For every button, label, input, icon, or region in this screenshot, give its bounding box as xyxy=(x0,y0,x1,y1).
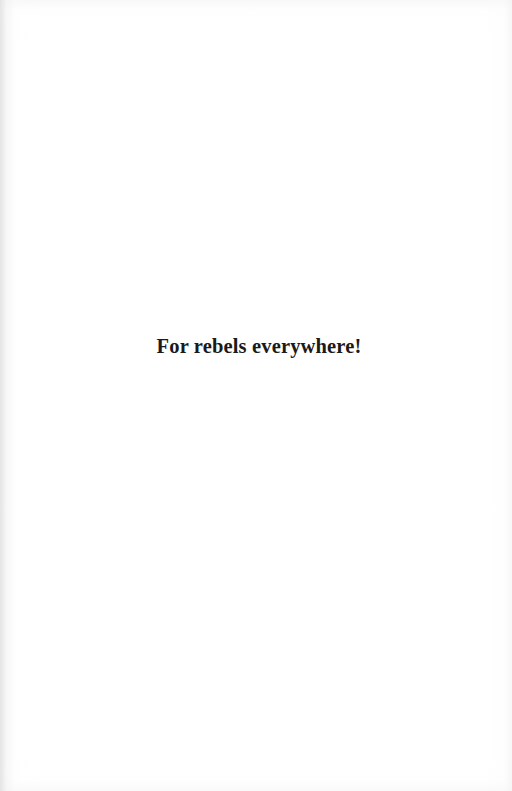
page-paper-texture xyxy=(0,0,512,791)
book-page: For rebels everywhere! xyxy=(0,0,512,791)
binding-shadow xyxy=(0,0,14,791)
dedication-block: For rebels everywhere! xyxy=(0,333,512,359)
dedication-text: For rebels everywhere! xyxy=(157,333,362,359)
